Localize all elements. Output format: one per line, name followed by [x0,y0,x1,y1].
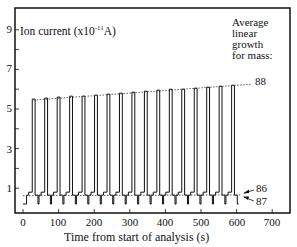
x-tick-300: 300 [122,216,139,228]
x-tick-200: 200 [86,216,103,228]
x-tick-600: 600 [229,216,246,228]
y-axis-label: Ion current (x10-11A) [20,23,116,37]
x-tick-100: 100 [50,216,67,228]
mass-87-label: 87 [256,196,267,207]
legend-line-4: for mass: [232,50,273,61]
x-tick-700: 700 [264,216,281,228]
y-tick-1: 1 [2,182,12,194]
arrow-86 [243,190,254,194]
x-axis-label: Time from start of analysis (s) [64,232,209,243]
y-tick-7: 7 [2,62,12,74]
y-tick-3: 3 [2,143,12,155]
x-tick-0: 0 [20,216,26,228]
ion-current-trace [23,85,239,204]
x-tick-400: 400 [157,216,174,228]
fit-line-mass-86 [23,195,240,196]
fit-line-mass-88 [34,84,251,100]
arrow-87 [243,197,254,202]
y-tick-5: 5 [2,102,12,114]
x-tick-500: 500 [193,216,210,228]
mass-86-label: 86 [256,183,267,194]
mass-88-label: 88 [255,76,266,87]
y-tick-9: 9 [2,23,12,35]
